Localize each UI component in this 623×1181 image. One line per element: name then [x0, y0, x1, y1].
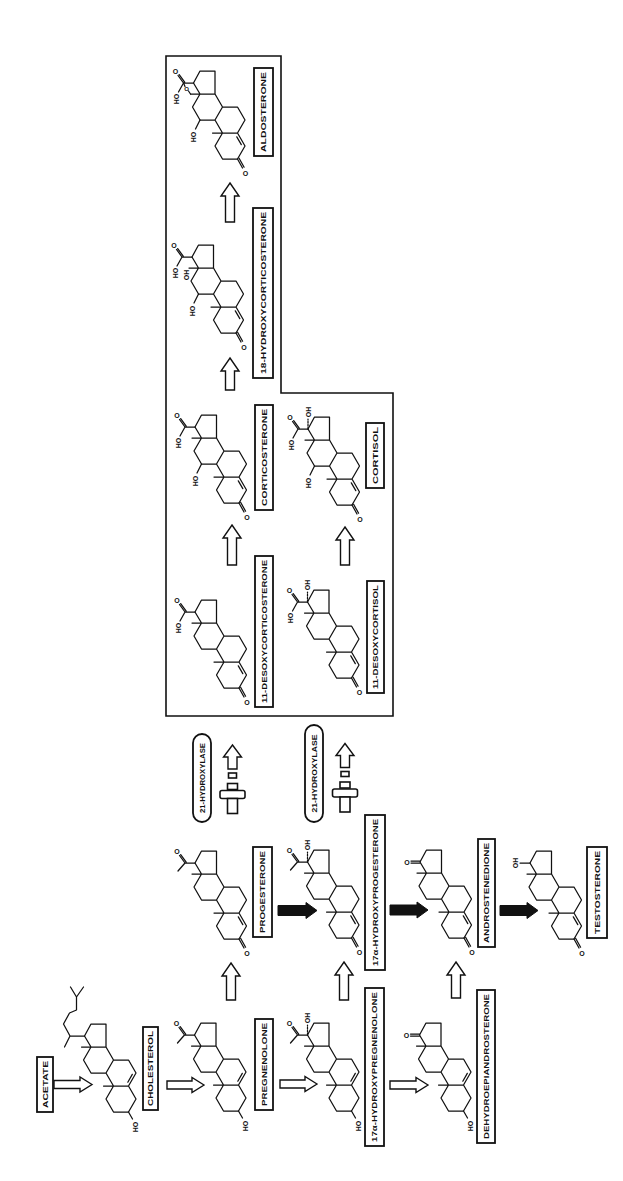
atom-label-o: O [357, 949, 363, 956]
structure-testosterone: OH O [512, 851, 586, 957]
steroid-skeleton [417, 1023, 472, 1111]
atom-label-oh: OH [305, 407, 312, 418]
label-text-17a-hydroxyprogesterone: 17α-HYDROXYPROGESTERONE [371, 818, 380, 966]
hydroxyl-c11-bond [197, 464, 202, 473]
structure-pregnenolone: O HO [174, 1020, 249, 1132]
atom-label-o: O [244, 699, 250, 706]
ketone-c3-bond [352, 677, 359, 687]
hydroxyl-c3-bond [239, 1111, 243, 1118]
label-aldosterone: ALDOSTERONE [254, 68, 273, 156]
atom-label-ho: HO [175, 622, 182, 633]
atom-label-o: O [244, 950, 250, 957]
block-segment-icon [229, 773, 237, 778]
block-stem-icon [228, 799, 238, 814]
hydroxyl-c3-bond [464, 1111, 468, 1118]
open-arrow-cholesterol-pregnenolone-icon [167, 1078, 204, 1093]
acetyl-side-chain [178, 855, 195, 871]
label-text-testosterone: TESTOSTERONE [593, 850, 602, 934]
c21-hydroxy-side-chain [177, 249, 193, 266]
label-text-androstenedione: ANDROSTENEDIONE [482, 842, 491, 943]
atom-label-ho: HO [305, 477, 312, 488]
atom-label-ho: HO [242, 1120, 249, 1131]
open-arrow-17oh-pregnenolone-dhea-icon [390, 1078, 428, 1093]
c21-hydroxy-side-chain [180, 604, 196, 621]
label-17a-hydroxyprogesterone: 17α-HYDROXYPROGESTERONE [365, 815, 385, 970]
ketone-c17-bond [411, 861, 420, 863]
label-text-17a-hydroxypregnenolone: 17α-HYDROXYPREGNENOLONE [370, 991, 379, 1142]
hydroxyl-c11-bond [310, 466, 315, 475]
atom-label-o: O [243, 170, 249, 177]
structure-11-desoxycorticosterone: O HO O [174, 597, 250, 706]
label-corticosterone: CORTICOSTERONE [255, 405, 273, 510]
atom-label-ho: HO [192, 475, 199, 486]
atom-label-ho: HO [175, 437, 182, 448]
ketone-c3-bond [239, 687, 246, 697]
steroid-skeleton [191, 71, 246, 159]
ketone-c3-bond [464, 937, 471, 947]
structure-corticosterone: O HO HO O [174, 412, 250, 521]
ketone-c3-bond [352, 504, 359, 514]
steroid-skeleton [192, 1023, 247, 1111]
cholesterol-side-chain [64, 987, 85, 1047]
blocked-arrow-progesterone-11doc [220, 745, 245, 814]
label-text-11-desoxycorticosterone: 11-DESOXYCORTICOSTERONE [260, 559, 269, 703]
open-arrow-dhea-androstenedione-icon [447, 962, 465, 998]
label-pregnenolone: PREGNENOLONE [255, 1019, 273, 1110]
atom-label-ho: HO [467, 1120, 474, 1131]
atom-label-oh: OH [304, 1013, 311, 1024]
steroid-skeleton [527, 851, 582, 939]
steroid-skeleton [305, 590, 360, 678]
structure-11-desoxycortisol: O HO OH O [287, 580, 363, 696]
steroid-skeleton [305, 417, 360, 505]
open-arrow-18oh-aldosterone-icon [221, 183, 239, 222]
structure-aldosterone: O O HO HO O [173, 68, 249, 177]
label-text-acetate: ACETATE [41, 1060, 50, 1108]
steroid-skeleton [417, 850, 472, 938]
enzyme-label: 21-HYDROXYLASE [198, 742, 207, 813]
c21-hydroxy-side-chain [293, 421, 309, 438]
atom-label-ho: HO [132, 1121, 139, 1132]
open-arrow-11doc-corticosterone-icon [223, 525, 241, 565]
atom-label-o: O [357, 516, 363, 523]
steroid-skeleton [192, 851, 247, 939]
label-11-desoxycorticosterone: 11-DESOXYCORTICOSTERONE [255, 556, 273, 707]
atom-label-o: O [287, 414, 293, 421]
structure-dehydroepiandrosterone: O HO [404, 1023, 474, 1131]
structure-17a-hydroxyprogesterone: O OH O [287, 840, 363, 956]
label-dehydroepiandrosterone: DEHYDROEPIANDROSTERONE [477, 990, 495, 1143]
ketone-c3-bond [236, 332, 243, 342]
open-arrow-up-icon [336, 744, 354, 768]
structure-18-hydroxycorticosterone: O HO OH HO O [171, 242, 247, 351]
acetyl-side-chain [178, 1027, 195, 1043]
atom-label-ho: HO [173, 93, 180, 104]
label-text-cortisol: CORTISOL [371, 427, 380, 484]
acetyl-side-chain [291, 854, 308, 870]
open-arrow-acetate-cholesterol-icon [54, 1077, 92, 1092]
atom-label-o: O [287, 847, 293, 854]
label-text-progesterone: PROGESTERONE [258, 850, 267, 933]
atom-label-o: O [404, 1032, 410, 1039]
label-testosterone: TESTOSTERONE [587, 847, 607, 938]
atom-label-o: O [174, 412, 180, 419]
atom-label-o: O [184, 86, 189, 92]
label-cortisol: CORTISOL [366, 423, 384, 488]
filled-arrow-androstenedione-testosterone-icon [500, 903, 538, 919]
hydroxyl-c3-bond [352, 1111, 356, 1118]
block-segment-icon [341, 772, 349, 777]
label-text-dehydroepiandrosterone: DEHYDROEPIANDROSTERONE [482, 993, 491, 1139]
atom-label-oh: OH [512, 858, 519, 869]
filled-arrow-progesterone-17oh-progesterone-icon [278, 903, 317, 919]
block-segment-icon [228, 784, 238, 790]
steroid-skeleton [82, 1024, 137, 1112]
atom-label-oh: OH [304, 840, 311, 851]
filled-arrow-17oh-progesterone-androstenedione-icon [390, 902, 428, 918]
label-11-desoxycortisol: 11-DESOXYCORTISOL [367, 581, 384, 693]
steroid-skeleton [189, 245, 244, 333]
hydroxyl-c11-bond [196, 120, 201, 129]
atom-label-o: O [173, 68, 179, 75]
atom-label-ho: HO [288, 439, 295, 450]
label-text-cholesterol: CHOLESTEROL [146, 1031, 155, 1106]
block-segment-icon [340, 782, 350, 788]
atom-label-o: O [469, 949, 475, 956]
structure-cholesterol: HO [64, 987, 140, 1132]
